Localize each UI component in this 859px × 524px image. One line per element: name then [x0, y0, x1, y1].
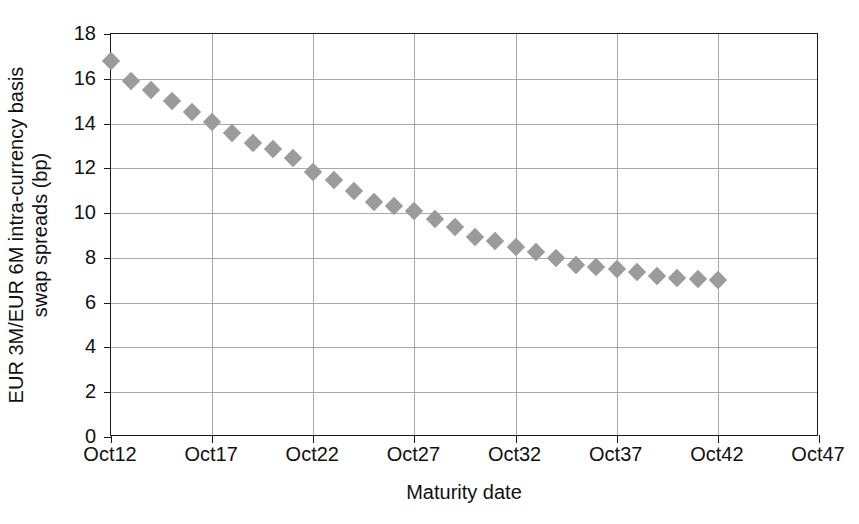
y-axis-title-wrap: EUR 3M/EUR 6M intra-currency basis swap … — [0, 33, 56, 436]
x-tick-mark — [516, 435, 517, 443]
gridline-horizontal — [111, 392, 817, 393]
y-tick-mark — [104, 34, 111, 35]
gridline-vertical — [516, 34, 517, 435]
gridline-vertical — [313, 34, 314, 435]
x-tick-label: Oct42 — [690, 444, 743, 464]
y-tick-mark — [104, 347, 111, 348]
gridline-vertical — [718, 34, 719, 435]
y-tick-mark — [104, 168, 111, 169]
data-point-marker — [648, 267, 666, 285]
data-point-marker — [506, 237, 524, 255]
x-axis-title: Maturity date — [110, 482, 818, 502]
y-tick-label: 4 — [0, 336, 96, 356]
x-tick-label: Oct37 — [589, 444, 642, 464]
y-tick-mark — [104, 303, 111, 304]
y-tick-label: 18 — [0, 23, 96, 43]
x-tick-mark — [819, 435, 820, 443]
x-tick-mark — [313, 435, 314, 443]
data-point-marker — [547, 249, 565, 267]
gridline-vertical — [414, 34, 415, 435]
data-point-marker — [162, 92, 180, 110]
y-tick-label: 8 — [0, 247, 96, 267]
data-point-marker — [709, 271, 727, 289]
data-point-marker — [628, 263, 646, 281]
x-tick-label: Oct22 — [286, 444, 339, 464]
x-tick-mark — [212, 435, 213, 443]
x-tick-label: Oct32 — [488, 444, 541, 464]
data-point-marker — [304, 162, 322, 180]
x-tick-label: Oct27 — [387, 444, 440, 464]
x-tick-mark — [617, 435, 618, 443]
gridline-vertical — [212, 34, 213, 435]
data-point-marker — [203, 113, 221, 131]
data-point-marker — [324, 170, 342, 188]
y-tick-label: 16 — [0, 68, 96, 88]
gridline-horizontal — [111, 303, 817, 304]
data-point-marker — [688, 270, 706, 288]
data-point-marker — [264, 140, 282, 158]
y-tick-label: 2 — [0, 381, 96, 401]
x-tick-label: Oct47 — [791, 444, 844, 464]
x-tick-label: Oct12 — [83, 444, 136, 464]
x-tick-mark — [718, 435, 719, 443]
gridline-horizontal — [111, 213, 817, 214]
y-tick-label: 6 — [0, 292, 96, 312]
x-tick-mark — [111, 435, 112, 443]
y-tick-mark — [104, 124, 111, 125]
data-point-marker — [486, 232, 504, 250]
data-point-marker — [183, 103, 201, 121]
chart-figure: EUR 3M/EUR 6M intra-currency basis swap … — [0, 0, 859, 524]
gridline-horizontal — [111, 258, 817, 259]
data-point-marker — [223, 123, 241, 141]
y-tick-mark — [104, 437, 111, 438]
data-point-marker — [446, 217, 464, 235]
data-point-marker — [587, 258, 605, 276]
data-point-marker — [284, 149, 302, 167]
y-tick-label: 14 — [0, 113, 96, 133]
data-point-marker — [345, 182, 363, 200]
data-point-marker — [405, 202, 423, 220]
data-point-marker — [122, 72, 140, 90]
y-tick-label: 0 — [0, 426, 96, 446]
y-tick-label: 12 — [0, 157, 96, 177]
x-tick-mark — [414, 435, 415, 443]
data-point-marker — [243, 133, 261, 151]
data-point-marker — [365, 193, 383, 211]
data-point-marker — [466, 227, 484, 245]
data-point-marker — [668, 269, 686, 287]
plot-area — [110, 33, 818, 436]
gridline-vertical — [617, 34, 618, 435]
y-tick-mark — [104, 213, 111, 214]
data-point-marker — [608, 260, 626, 278]
data-point-marker — [102, 52, 120, 70]
y-tick-mark — [104, 392, 111, 393]
y-tick-label: 10 — [0, 202, 96, 222]
gridline-horizontal — [111, 79, 817, 80]
x-tick-label: Oct17 — [184, 444, 237, 464]
gridline-horizontal — [111, 168, 817, 169]
gridline-horizontal — [111, 347, 817, 348]
data-point-marker — [142, 81, 160, 99]
y-tick-mark — [104, 79, 111, 80]
y-tick-mark — [104, 258, 111, 259]
